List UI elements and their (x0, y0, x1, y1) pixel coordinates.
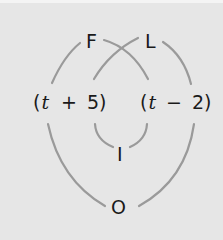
factor-left-operator: + (61, 91, 77, 113)
factor-left-open-paren: ( (33, 91, 40, 113)
arc-i-left (95, 124, 113, 147)
factor-right-var: t (148, 91, 156, 113)
factor-right-open-paren: ( (140, 91, 147, 113)
arc-o-right (139, 124, 194, 206)
arc-o-left (48, 124, 105, 206)
arc-l-right (163, 42, 191, 84)
factor-right-close-paren: ) (204, 91, 211, 113)
factor-right: (t−2) (140, 93, 212, 112)
factor-left: (t+5) (33, 93, 107, 112)
factor-right-number: 2 (192, 91, 204, 113)
arc-i-right (130, 124, 147, 147)
factor-left-close-paren: ) (99, 91, 106, 113)
factor-left-var: t (41, 91, 49, 113)
label-l: L (145, 32, 156, 51)
label-f: F (86, 32, 97, 51)
label-i: I (117, 145, 123, 164)
arc-f-left (52, 43, 80, 83)
factor-right-operator: − (166, 91, 182, 113)
factor-left-number: 5 (87, 91, 99, 113)
label-o: O (111, 198, 126, 217)
